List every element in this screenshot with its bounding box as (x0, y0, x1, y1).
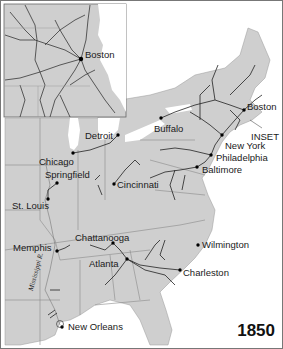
inset-boston-label: Boston (85, 50, 115, 60)
city-label-atlanta: Atlanta (89, 259, 119, 269)
map-year: 1850 (237, 321, 275, 341)
city-label-chattanooga: Chattanooga (75, 233, 129, 243)
city-label-chicago: Chicago (39, 157, 74, 167)
city-label-st-louis: St. Louis (12, 201, 49, 211)
city-label-boston: Boston (247, 102, 277, 112)
inset-boston-dot (79, 57, 83, 61)
city-label-charleston: Charleston (183, 268, 229, 278)
city-label-wilmington: Wilmington (202, 240, 249, 250)
city-label-springfield: Springfield (45, 170, 90, 180)
city-label-cincinnati: Cincinnati (117, 180, 159, 190)
city-label-philadelphia: Philadelphia (216, 153, 268, 163)
city-label-new-york: New York (225, 141, 265, 151)
city-label-new-orleans: New Orleans (68, 322, 123, 332)
city-label-memphis: Memphis (13, 243, 52, 253)
railroad-map-1850: Boston Boston Buffalo INSET New York Phi… (0, 0, 283, 349)
city-label-detroit: Detroit (85, 131, 113, 141)
city-label-baltimore: Baltimore (202, 165, 242, 175)
city-label-buffalo: Buffalo (154, 124, 183, 134)
